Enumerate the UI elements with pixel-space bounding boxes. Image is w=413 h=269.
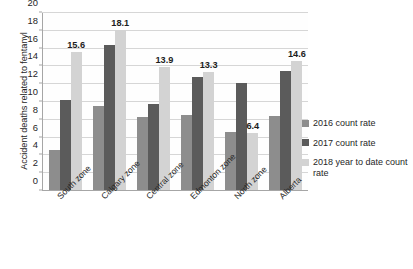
y-tick-label: 18 bbox=[28, 14, 38, 25]
y-tick-label: 14 bbox=[28, 50, 38, 61]
bar-slot: 6.4 bbox=[247, 13, 258, 190]
legend-item[interactable]: 2018 year to date count rate bbox=[302, 157, 410, 178]
legend-color-swatch bbox=[302, 139, 309, 146]
bar-slot bbox=[49, 13, 60, 190]
y-tick-label: 20 bbox=[28, 0, 38, 8]
bar-slot bbox=[269, 13, 280, 190]
bar[interactable] bbox=[115, 30, 126, 190]
bar[interactable] bbox=[236, 83, 247, 190]
bar-slot bbox=[148, 13, 159, 190]
y-tick-label: 12 bbox=[28, 68, 38, 79]
bar-group: 18.1 bbox=[87, 13, 131, 190]
bar-slot bbox=[104, 13, 115, 190]
bar-group: 15.6 bbox=[43, 13, 87, 190]
y-tick-label: 0 bbox=[33, 175, 38, 186]
y-tick-label: 10 bbox=[28, 86, 38, 97]
bar-slot: 15.6 bbox=[71, 13, 82, 190]
x-label-cell: Central zone bbox=[132, 192, 176, 252]
bar-slot bbox=[236, 13, 247, 190]
bar[interactable] bbox=[60, 100, 71, 190]
y-axis-title: Accident deaths related to fentanyl bbox=[19, 1, 29, 201]
x-label-cell: North zone bbox=[220, 192, 264, 252]
bar[interactable] bbox=[280, 71, 291, 190]
bar-value-label: 15.6 bbox=[67, 40, 85, 50]
y-tick-label: 16 bbox=[28, 32, 38, 43]
x-label-cell: Alberta bbox=[265, 192, 309, 252]
legend-item[interactable]: 2017 count rate bbox=[302, 138, 410, 149]
bar[interactable] bbox=[137, 117, 148, 190]
bar-value-label: 6.4 bbox=[246, 121, 259, 131]
legend-color-swatch bbox=[302, 120, 309, 127]
bar-value-label: 13.3 bbox=[200, 60, 218, 70]
bar-value-label: 18.1 bbox=[111, 18, 129, 28]
legend-label: 2016 count rate bbox=[313, 118, 376, 129]
bar-slot: 13.3 bbox=[203, 13, 214, 190]
y-tick-label: 4 bbox=[33, 139, 38, 150]
legend-label: 2017 count rate bbox=[313, 138, 376, 149]
y-tick-label: 6 bbox=[33, 121, 38, 132]
bar[interactable] bbox=[93, 106, 104, 190]
bar[interactable] bbox=[49, 150, 60, 190]
bar[interactable] bbox=[181, 115, 192, 190]
bar-chart: Accident deaths related to fentanyl 0246… bbox=[0, 0, 413, 269]
legend-label: 2018 year to date count rate bbox=[313, 157, 410, 178]
y-tick-label: 8 bbox=[33, 103, 38, 114]
bar[interactable] bbox=[192, 77, 203, 190]
legend-color-swatch bbox=[302, 159, 309, 166]
bar-slot: 18.1 bbox=[115, 13, 126, 190]
x-label-cell: South zone bbox=[43, 192, 87, 252]
bar-value-label: 13.9 bbox=[155, 55, 173, 65]
x-label-cell: Edmonton zone bbox=[176, 192, 220, 252]
legend-item[interactable]: 2016 count rate bbox=[302, 118, 410, 129]
bar-value-label: 14.6 bbox=[288, 49, 306, 59]
x-axis-line bbox=[42, 190, 308, 191]
x-axis-labels: South zoneCalgary zoneCentral zoneEdmont… bbox=[43, 192, 309, 252]
bar-slot: 14.6 bbox=[291, 13, 302, 190]
bar[interactable] bbox=[104, 45, 115, 190]
x-label-cell: Calgary zone bbox=[87, 192, 131, 252]
bar-slot bbox=[192, 13, 203, 190]
bar[interactable] bbox=[269, 116, 280, 190]
y-tick-label: 2 bbox=[33, 157, 38, 168]
bar[interactable] bbox=[291, 61, 302, 190]
bar-slot bbox=[93, 13, 104, 190]
bar-slot bbox=[280, 13, 291, 190]
bar-slot: 13.9 bbox=[159, 13, 170, 190]
chart-legend: 2016 count rate2017 count rate2018 year … bbox=[302, 118, 410, 187]
bar[interactable] bbox=[148, 104, 159, 190]
